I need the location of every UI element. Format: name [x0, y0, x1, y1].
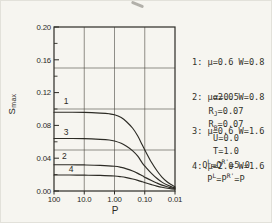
x-axis-title: P: [107, 205, 123, 216]
legend-entry-1: 1: μ=0.6 W=0.8: [192, 57, 272, 69]
curve-label-1: 1: [64, 96, 69, 106]
y-tick-label: 0.20: [37, 23, 52, 32]
y-tick-label: 0.04: [37, 154, 52, 163]
y-tick-label: 0.08: [37, 121, 51, 130]
parameter-line: U=0.0: [184, 132, 268, 146]
y-axis-title-sub: max: [10, 94, 17, 108]
parameter-line: T=1.0: [184, 145, 268, 159]
curve-label-4: 4: [69, 164, 74, 174]
parameter-line: QL=QR'=5.0: [184, 159, 268, 173]
y-axis-title-main: S: [6, 108, 17, 115]
parameter-list: α=0.5RJ=0.07RB=0.07U=0.0T=1.0QL=QR'=5.0P…: [184, 91, 268, 186]
x-tick-label: 10.0: [77, 195, 92, 204]
x-tick-label: 0.01: [168, 195, 182, 204]
y-axis-title: Smax: [6, 84, 18, 124]
parameter-line: PL=PR'=P: [184, 173, 268, 187]
y-tick-label: 0.12: [37, 88, 51, 97]
parameter-line: RJ=0.07: [184, 105, 268, 119]
parameter-line: α=0.5: [184, 91, 268, 105]
curve-label-3: 3: [64, 127, 69, 137]
y-tick-label: 0.16: [37, 56, 51, 65]
x-tick-label: 100: [48, 195, 61, 204]
figure: 12340.000.040.080.120.160.2010010.01.000…: [0, 0, 272, 223]
x-tick-label: 0.10: [138, 195, 153, 204]
parameter-line: RB=0.07: [184, 118, 268, 132]
x-tick-label: 1.00: [107, 195, 122, 204]
curve-label-2: 2: [62, 151, 67, 161]
